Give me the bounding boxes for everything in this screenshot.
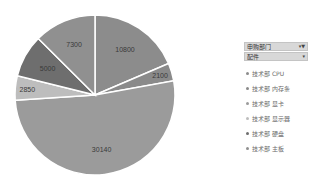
pie-chart: 10800210030140285050007300 [0, 0, 200, 179]
legend-item: 技术部 内存条 [246, 81, 290, 96]
legend-item: 技术部 CPU [246, 66, 290, 81]
legend-item: 技术部 显示器 [246, 111, 290, 126]
legend-marker-icon [246, 132, 249, 135]
filter-icon[interactable]: ▾▼ [299, 42, 305, 51]
data-label: 7300 [66, 41, 82, 48]
data-label: 2100 [152, 72, 168, 79]
legend-marker-icon [246, 147, 249, 150]
legend-item: 技术部 显卡 [246, 96, 290, 111]
legend-item: 技术部 主板 [246, 141, 290, 156]
data-label: 5000 [40, 65, 56, 72]
legend-item: 技术部 硬盘 [246, 126, 290, 141]
data-label: 2850 [20, 86, 36, 93]
data-label: 30140 [92, 146, 112, 153]
pivot-field-buttons: 申购部门 ▾▼ 配件 ▾ [244, 42, 308, 62]
chart-legend: 技术部 CPU 技术部 内存条 技术部 显卡 技术部 显示器 技术部 硬盘 技术… [246, 66, 290, 156]
dropdown-icon[interactable]: ▾ [302, 52, 305, 61]
field-label-parts: 配件 [247, 52, 259, 61]
legend-marker-icon [246, 102, 249, 105]
field-button-parts[interactable]: 配件 ▾ [244, 52, 308, 61]
legend-marker-icon [246, 72, 249, 75]
legend-marker-icon [246, 117, 249, 120]
data-label: 10800 [115, 46, 135, 53]
field-label-department: 申购部门 [247, 42, 271, 51]
field-button-department[interactable]: 申购部门 ▾▼ [244, 42, 308, 51]
legend-marker-icon [246, 87, 249, 90]
